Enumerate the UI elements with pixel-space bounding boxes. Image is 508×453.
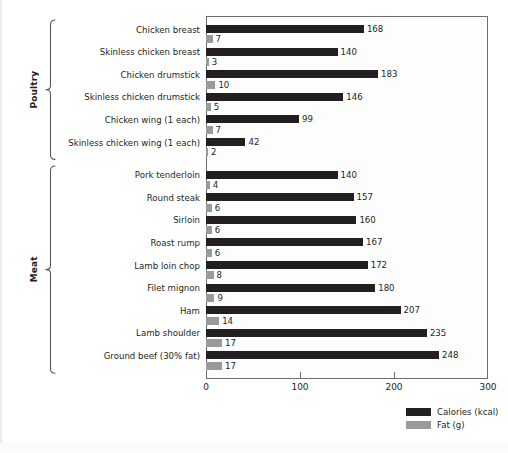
bar-calories [206, 93, 343, 101]
category-label: Ham [56, 306, 200, 316]
bar-value-fat: 14 [222, 317, 233, 325]
bar-value-fat: 17 [225, 362, 236, 370]
bar-fat [206, 35, 213, 43]
bar-calories [206, 306, 401, 314]
bar-value-calories: 168 [367, 25, 383, 33]
category-label: Roast rump [56, 238, 200, 248]
bar-value-calories: 248 [442, 351, 458, 359]
category-label: Filet mignon [56, 283, 200, 293]
category-label: Chicken drumstick [56, 70, 200, 80]
bar-value-calories: 99 [302, 115, 313, 123]
bar-fat [206, 249, 212, 257]
bar-value-calories: 183 [381, 70, 397, 78]
x-axis-tick-labels: 0100200300 [206, 382, 488, 396]
bar-value-fat: 10 [218, 81, 229, 89]
category-label: Round steak [56, 193, 200, 203]
bar-calories [206, 329, 427, 337]
category-group-brace-icon [44, 165, 56, 374]
chart-figure: PoultryMeat Chicken breastSkinless chick… [0, 0, 508, 453]
bar-fat [206, 204, 212, 212]
bar-fat [206, 181, 210, 189]
bar-value-fat: 7 [216, 35, 221, 43]
bar-calories [206, 48, 338, 56]
bar-value-fat: 17 [225, 339, 236, 347]
bar-value-calories: 140 [341, 48, 357, 56]
category-label: Lamb loin chop [56, 261, 200, 271]
bar-fat [206, 294, 214, 302]
bar-calories [206, 70, 378, 78]
bar-value-calories: 172 [371, 261, 387, 269]
bar-fat [206, 58, 209, 66]
bar-fat [206, 103, 211, 111]
bar-calories [206, 238, 363, 246]
bar-fat [206, 339, 222, 347]
x-axis-tick-label: 300 [479, 382, 496, 392]
bar-calories [206, 193, 354, 201]
bar-fat [206, 362, 222, 370]
legend-swatch-icon [406, 421, 431, 429]
bar-fat [206, 271, 214, 279]
category-label: Ground beef (30% fat) [56, 351, 200, 361]
bar-fat [206, 81, 215, 89]
bar-value-fat: 5 [214, 103, 219, 111]
bar-value-calories: 146 [346, 93, 362, 101]
category-label: Lamb shoulder [56, 328, 200, 338]
category-group-label: Meat [26, 165, 42, 374]
bar-calories [206, 25, 364, 33]
legend-label: Calories (kcal) [437, 407, 498, 417]
bar-value-fat: 6 [215, 226, 220, 234]
category-group-label: Poultry [26, 19, 42, 160]
bar-calories [206, 261, 368, 269]
category-label: Chicken breast [56, 25, 200, 35]
legend-item: Fat (g) [406, 419, 498, 431]
bar-value-calories: 42 [248, 138, 259, 146]
bar-value-calories: 140 [341, 171, 357, 179]
bar-value-calories: 160 [359, 216, 375, 224]
bar-fat [206, 148, 208, 156]
bar-fat [206, 317, 219, 325]
bar-value-fat: 7 [216, 126, 221, 134]
category-group-brace-icon [44, 19, 56, 160]
bar-value-calories: 207 [404, 306, 420, 314]
bar-fat [206, 126, 213, 134]
bar-value-calories: 157 [357, 193, 373, 201]
category-label: Skinless chicken breast [56, 47, 200, 57]
legend-label: Fat (g) [437, 420, 465, 430]
bar-value-fat: 4 [213, 181, 218, 189]
scan-bottom-artifact [0, 443, 508, 453]
category-label: Skinless chicken drumstick [56, 92, 200, 102]
bar-fat [206, 226, 212, 234]
category-label: Sirloin [56, 215, 200, 225]
bar-value-fat: 3 [212, 58, 217, 66]
bar-value-fat: 6 [215, 249, 220, 257]
bar-value-calories: 235 [430, 329, 446, 337]
category-label: Pork tenderloin [56, 170, 200, 180]
bar-value-fat: 6 [215, 204, 220, 212]
bar-value-fat: 2 [211, 148, 216, 156]
bar-value-calories: 167 [366, 238, 382, 246]
x-axis-tick-label: 0 [203, 382, 209, 392]
bar-calories [206, 115, 299, 123]
bar-calories [206, 171, 338, 179]
x-axis-tick-label: 200 [385, 382, 402, 392]
legend-item: Calories (kcal) [406, 406, 498, 418]
category-label: Skinless chicken wing (1 each) [56, 138, 200, 148]
x-axis-tick-label: 100 [291, 382, 308, 392]
bars-layer: 1687140318310146599742214041576160616761… [206, 16, 488, 379]
bar-calories [206, 138, 245, 146]
bar-value-fat: 9 [217, 294, 222, 302]
bar-value-calories: 180 [378, 284, 394, 292]
bar-calories [206, 284, 375, 292]
bar-value-fat: 8 [217, 271, 222, 279]
category-label: Chicken wing (1 each) [56, 115, 200, 125]
legend-swatch-icon [406, 408, 431, 416]
bar-calories [206, 216, 356, 224]
bar-calories [206, 351, 439, 359]
chart-legend: Calories (kcal)Fat (g) [406, 406, 498, 432]
